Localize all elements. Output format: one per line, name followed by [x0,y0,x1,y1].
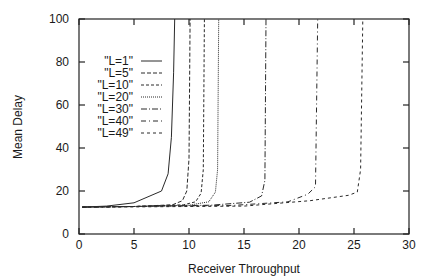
x-tick-label: 30 [402,238,416,252]
y-tick-label: 40 [56,141,70,155]
y-tick-label: 80 [56,55,70,69]
x-tick-label: 5 [131,238,138,252]
y-tick-label: 20 [56,184,70,198]
x-tick-label: 10 [182,238,196,252]
y-tick-label: 60 [56,98,70,112]
legend-label: "L=49" [97,126,133,140]
x-tick-label: 0 [76,238,83,252]
x-tick-label: 15 [237,238,251,252]
legend: "L=1""L=5""L=10""L=20""L=30""L=40""L=49" [97,54,162,140]
y-tick-label: 100 [49,12,69,26]
y-tick-label: 0 [62,227,69,241]
y-axis-title: Mean Delay [11,95,25,159]
line-chart: 051015202530 020406080100 Receiver Throu… [0,0,431,277]
x-tick-label: 25 [347,238,361,252]
x-axis-title: Receiver Throughput [188,262,301,276]
x-tick-label: 20 [292,238,306,252]
